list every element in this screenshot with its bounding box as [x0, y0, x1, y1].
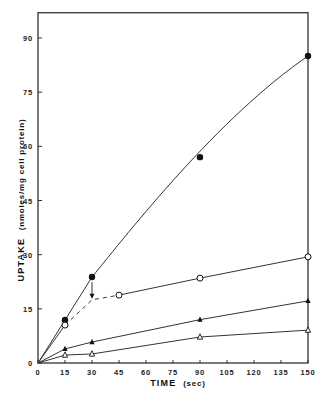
filled-circle-marker: [89, 274, 95, 280]
open-circle-marker: [197, 275, 203, 281]
plot-frame: [38, 13, 308, 363]
x-tick-label: 90: [195, 368, 205, 377]
filled-triangle-marker: [305, 298, 310, 303]
y-tick-label: 75: [23, 88, 33, 97]
filled-circle-marker: [197, 154, 203, 160]
open-triangle-marker: [305, 327, 310, 332]
x-tick-label: 15: [60, 368, 70, 377]
data-series: [38, 56, 308, 363]
open-circle-dashed-segment: [65, 295, 119, 325]
data-markers: [62, 53, 311, 357]
x-tick-label: 60: [141, 368, 151, 377]
open-triangle-line: [38, 330, 308, 363]
y-tick-label: 90: [23, 34, 33, 43]
x-tick-label: 30: [87, 368, 97, 377]
x-tick-label: 120: [247, 368, 262, 377]
x-tick-label: 75: [168, 368, 178, 377]
x-tick-label: 135: [274, 368, 289, 377]
uptake-chart: 0153045607590 0153045607590105120135150 …: [0, 0, 331, 396]
filled-triangle-line: [38, 301, 308, 363]
open-circle-segment: [38, 325, 65, 363]
open-circle-marker: [305, 254, 311, 260]
plot-border: [38, 13, 308, 363]
x-tick-label: 105: [220, 368, 235, 377]
y-axis-title: UPTAKE (nmoles/mg cell protein): [16, 119, 26, 282]
arrow-down-icon: [90, 294, 95, 299]
y-tick-label: 15: [23, 305, 33, 314]
filled-circle-marker: [305, 53, 311, 59]
open-circle-marker: [62, 322, 68, 328]
filled-circle-curve: [38, 56, 308, 363]
x-axis-title: TIME (sec): [150, 378, 206, 388]
x-tick-label: 45: [114, 368, 124, 377]
y-tick-label: 0: [28, 359, 33, 368]
x-tick-label: 0: [36, 368, 41, 377]
open-circle-curve: [119, 257, 308, 295]
open-circle-marker: [116, 292, 122, 298]
x-tick-label: 150: [301, 368, 316, 377]
